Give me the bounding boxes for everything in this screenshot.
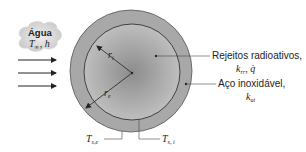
T-outer-surface-label: Ts,e [86, 133, 98, 145]
sphere [70, 10, 192, 132]
T-inner-surface-label: Ts, i [162, 133, 175, 145]
steel-properties: kai [246, 91, 255, 103]
T-outer-leader [104, 131, 122, 139]
fluid-name: Água [28, 27, 52, 38]
water-cloud: Água T∞, h [19, 22, 61, 52]
waste-label: Rejeitos radioativos, [212, 50, 302, 61]
center-point [131, 72, 133, 74]
spherical-container-diagram: Água T∞, h ri re Rejeitos radioativos, k… [0, 0, 306, 152]
steel-label: Aço inoxidável, [218, 78, 285, 89]
fluid-temperature: T∞, h [29, 38, 50, 50]
waste-properties: krr, q̇ [236, 63, 255, 75]
flow-arrows [18, 60, 56, 86]
